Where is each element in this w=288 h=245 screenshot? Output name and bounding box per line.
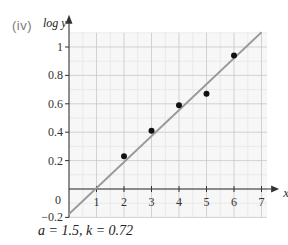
data-point [149,128,155,134]
x-tick-label: 6 [231,195,237,209]
chart: 1234567−0.200.20.40.60.81x [0,0,288,245]
x-axis-label: x [282,185,288,200]
y-tick-label: 0.8 [48,68,63,82]
y-tick-label: 0.4 [48,125,63,139]
x-tick-label: 7 [259,195,265,209]
y-tick-label: 1 [57,40,63,54]
x-tick-label: 1 [94,195,100,209]
y-axis-arrow-icon [66,15,73,24]
y-tick-label: 0 [55,193,61,207]
x-tick-label: 3 [149,195,155,209]
y-tick-label: 0.6 [48,97,63,111]
x-tick-label: 2 [121,195,127,209]
data-point [204,91,210,97]
grid-background [69,33,267,218]
x-tick-label: 4 [176,195,182,209]
caption: a = 1.5, k = 0.72 [38,223,133,239]
data-point [121,153,127,159]
x-axis-arrow-icon [271,186,279,193]
data-point [231,53,237,59]
x-tick-label: 5 [204,195,210,209]
data-point [176,102,182,108]
y-tick-label: 0.2 [48,154,63,168]
